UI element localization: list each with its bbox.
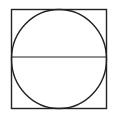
inscribed-circle: [12, 10, 107, 109]
circle-in-square-diagram: [0, 0, 115, 119]
